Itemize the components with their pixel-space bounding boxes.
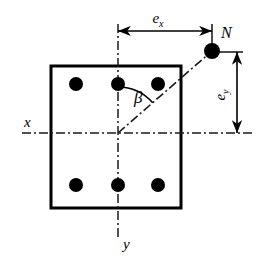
load-point-N xyxy=(204,43,220,59)
beta-angle-label: β xyxy=(133,88,143,107)
rebar-dot xyxy=(151,178,165,192)
rebar-dot xyxy=(111,178,125,192)
ecc-y-label: ey xyxy=(212,89,231,101)
rebar-dot xyxy=(69,77,83,91)
y-axis-label: y xyxy=(121,236,130,252)
diagram-canvas: x y N β ex ey xyxy=(0,0,269,259)
rebar-dot xyxy=(111,77,125,91)
ecc-x-label: ex xyxy=(152,10,164,29)
eccentricity-diagram: x y N β ex ey xyxy=(0,0,269,259)
x-axis-label: x xyxy=(23,114,31,130)
node-label-N: N xyxy=(220,24,233,41)
ecc-x-subscript: x xyxy=(158,18,164,29)
ecc-y-subscript: y xyxy=(220,89,231,95)
rebar-dot xyxy=(151,77,165,91)
rebar-dot xyxy=(69,178,83,192)
